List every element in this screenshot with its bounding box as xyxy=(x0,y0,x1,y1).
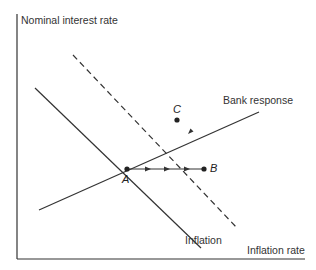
dashed-shifted-line xyxy=(73,55,237,228)
inflation-label: Inflation xyxy=(185,234,222,246)
arrowhead-icon xyxy=(164,167,170,172)
y-axis-label: Nominal interest rate xyxy=(21,14,118,26)
point-c xyxy=(174,117,179,122)
point-b-label: B xyxy=(210,162,217,174)
bank-response-line xyxy=(39,112,259,210)
arrowhead-icon xyxy=(184,167,190,172)
point-a-label: A xyxy=(121,173,129,185)
arrowhead-icon xyxy=(145,167,151,172)
x-axis-label: Inflation rate xyxy=(247,244,305,256)
diagram-canvas: A B C Nominal interest rate Inflation ra… xyxy=(0,0,316,270)
bank-response-label: Bank response xyxy=(223,94,293,106)
point-c-label: C xyxy=(173,103,181,115)
point-b xyxy=(201,166,206,171)
arrowhead-icon xyxy=(188,129,194,135)
point-a xyxy=(124,166,129,171)
